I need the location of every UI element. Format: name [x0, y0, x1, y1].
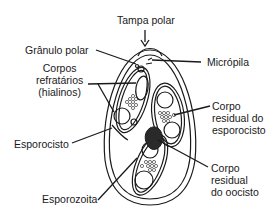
- label-corpo-residual-oocisto: Corpo residual do oocisto: [211, 162, 259, 198]
- label-esporocisto: Esporocisto: [14, 138, 69, 150]
- label-tampa-polar: Tampa polar: [117, 14, 175, 26]
- sporocyst-1: [109, 63, 157, 136]
- label-corpo-residual-esporocisto: Corpo residual do esporocisto: [212, 100, 266, 136]
- label-micropila: Micrópila: [207, 56, 249, 68]
- label-granulo-polar: Grânulo polar: [25, 44, 89, 56]
- label-corpos-refratarios: Corpos refratários (hialinos): [36, 62, 83, 98]
- oocyst-residual-body: [145, 127, 162, 150]
- granules-3: [140, 160, 157, 171]
- label-esporozoita: Esporozoita: [42, 193, 97, 205]
- granules-1: [125, 94, 137, 109]
- granules-2: [158, 111, 175, 122]
